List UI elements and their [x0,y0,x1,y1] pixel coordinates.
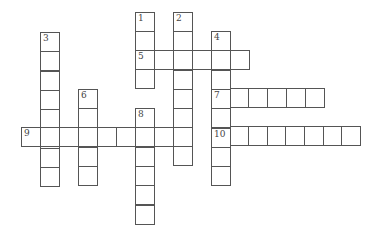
crossword-cell[interactable] [173,31,193,51]
crossword-cell[interactable] [135,147,155,167]
crossword-cell[interactable] [78,108,98,128]
crossword-cell[interactable]: 10 [211,128,231,148]
crossword-cell[interactable] [135,31,155,51]
crossword-cell[interactable]: 3 [40,32,60,52]
crossword-cell[interactable] [230,88,250,108]
crossword-cell[interactable] [230,126,250,146]
crossword-cell[interactable] [341,126,361,146]
clue-number: 2 [176,13,182,23]
crossword-cell[interactable] [323,126,343,146]
crossword-cell[interactable] [40,71,60,91]
crossword-cell[interactable] [304,126,324,146]
crossword-cell[interactable] [40,90,60,110]
crossword-cell[interactable] [40,127,60,147]
crossword-cell[interactable] [285,126,305,146]
clue-number: 6 [81,90,87,100]
crossword-cell[interactable] [40,148,60,168]
clue-number: 7 [214,90,220,100]
crossword-cell[interactable] [135,205,155,225]
crossword-cell[interactable] [78,147,98,167]
crossword-cell[interactable] [211,50,231,70]
crossword-cell[interactable] [97,127,117,147]
crossword-grid: 15234710689 [0,0,374,237]
crossword-cell[interactable] [78,166,98,186]
crossword-cell[interactable] [173,146,193,166]
crossword-cell[interactable] [154,50,174,70]
crossword-cell[interactable] [211,147,231,167]
crossword-cell[interactable] [173,89,193,109]
crossword-cell[interactable] [135,166,155,186]
crossword-cell[interactable]: 2 [173,12,193,32]
crossword-cell[interactable] [248,126,268,146]
crossword-cell[interactable] [59,127,79,147]
crossword-cell[interactable] [135,127,155,147]
crossword-cell[interactable] [173,70,193,90]
crossword-cell[interactable] [211,166,231,186]
crossword-cell[interactable] [192,50,212,70]
crossword-cell[interactable]: 8 [135,108,155,128]
clue-number: 3 [43,33,49,43]
crossword-cell[interactable]: 5 [135,50,155,70]
crossword-cell[interactable]: 6 [78,89,98,109]
clue-number: 10 [214,129,225,139]
clue-number: 5 [138,51,144,61]
crossword-cell[interactable] [40,109,60,129]
crossword-cell[interactable]: 7 [211,89,231,109]
crossword-cell[interactable]: 1 [135,12,155,32]
crossword-cell[interactable] [267,126,287,146]
crossword-cell[interactable] [286,88,306,108]
crossword-cell[interactable] [135,185,155,205]
crossword-cell[interactable] [40,51,60,71]
crossword-cell[interactable] [40,167,60,187]
crossword-cell[interactable] [135,69,155,89]
crossword-cell[interactable] [116,127,136,147]
crossword-cell[interactable] [78,127,98,147]
clue-number: 9 [24,128,30,138]
crossword-cell[interactable] [173,50,193,70]
clue-number: 1 [138,13,144,23]
crossword-cell[interactable] [173,127,193,147]
crossword-cell[interactable] [211,108,231,128]
crossword-cell[interactable] [230,50,250,70]
crossword-cell[interactable]: 4 [211,31,231,51]
clue-number: 8 [138,109,144,119]
crossword-cell[interactable]: 9 [21,127,41,147]
crossword-cell[interactable] [173,108,193,128]
clue-number: 4 [214,32,220,42]
crossword-cell[interactable] [267,88,287,108]
crossword-cell[interactable] [305,88,325,108]
crossword-cell[interactable] [154,127,174,147]
crossword-cell[interactable] [248,88,268,108]
crossword-cell[interactable] [211,70,231,90]
